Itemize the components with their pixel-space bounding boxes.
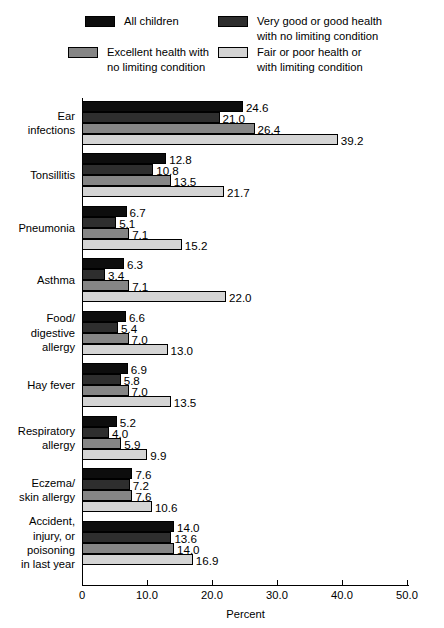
legend-swatch-fair-or-poor-health [218, 47, 248, 58]
bar [83, 344, 168, 355]
bar [83, 554, 193, 565]
bar-value-label: 24.6 [246, 102, 269, 113]
bar-value-label: 13.5 [174, 397, 197, 408]
bar-group: Eczema/ skin allergy7.67.27.610.6 [0, 468, 444, 512]
category-label: Ear infections [0, 109, 75, 138]
bar-value-label: 39.2 [341, 135, 364, 146]
bar [83, 280, 129, 291]
legend-entry-fair-or-poor-health: Fair or poor health or with limiting con… [218, 45, 363, 74]
bar [83, 521, 174, 532]
x-tick-mark [277, 580, 278, 586]
bar-group: Pneumonia6.75.17.115.2 [0, 206, 444, 250]
bar-chart-plot-area: 010.020.030.040.050.0 Ear infections24.6… [0, 96, 444, 628]
x-tick-label: 30.0 [254, 589, 300, 601]
bar-value-label: 21.7 [227, 187, 250, 198]
bar [83, 101, 243, 112]
bar-group: Hay fever6.95.87.013.5 [0, 363, 444, 407]
chart-legend: All children Very good or good health wi… [0, 0, 444, 96]
bar [83, 322, 118, 333]
category-label: Pneumonia [0, 221, 75, 235]
legend-swatch-excellent-health [68, 47, 98, 58]
bar [83, 228, 129, 239]
bar [83, 449, 147, 460]
bar-group: Asthma6.33.47.122.0 [0, 258, 444, 302]
bar [83, 123, 255, 134]
bar [83, 206, 127, 217]
bar [83, 153, 166, 164]
legend-label: Very good or good health with no limitin… [257, 14, 382, 43]
bar [83, 396, 171, 407]
bar-value-label: 13.0 [171, 345, 194, 356]
x-tick-label: 10.0 [124, 589, 170, 601]
bar [83, 490, 132, 501]
x-tick-mark [212, 580, 213, 586]
bar [83, 374, 121, 385]
bar [83, 385, 129, 396]
bar-value-label: 22.0 [229, 292, 252, 303]
x-tick-mark [147, 580, 148, 586]
category-label: Accident, injury, or poisoning in last y… [0, 514, 75, 572]
x-axis-title: Percent [82, 608, 409, 620]
bar [83, 134, 338, 145]
bar [83, 532, 171, 543]
bar-group: Food/ digestive allergy6.65.47.013.0 [0, 311, 444, 355]
bar [83, 239, 182, 250]
legend-label: Fair or poor health or with limiting con… [257, 45, 363, 74]
bar [83, 501, 152, 512]
bar [83, 175, 171, 186]
legend-swatch-all-children [85, 16, 115, 27]
category-label: Hay fever [0, 378, 75, 392]
bar [83, 333, 129, 344]
bar [83, 438, 121, 449]
bar [83, 291, 226, 302]
bar-group: Tonsillitis12.810.813.521.7 [0, 153, 444, 197]
bar [83, 468, 132, 479]
x-tick-label: 40.0 [319, 589, 365, 601]
bar-value-label: 16.9 [196, 555, 219, 566]
bar [83, 416, 117, 427]
bar [83, 258, 124, 269]
bar [83, 112, 220, 123]
legend-entry-very-good-or-good-health: Very good or good health with no limitin… [218, 14, 382, 43]
legend-entry-all-children: All children [85, 14, 179, 29]
bar-value-label: 10.6 [155, 502, 178, 513]
bar [83, 186, 224, 197]
bar [83, 269, 105, 280]
category-label: Tonsillitis [0, 168, 75, 182]
bar [83, 311, 126, 322]
x-axis-line [82, 585, 409, 586]
bar-value-label: 15.2 [185, 240, 208, 251]
category-label: Food/ digestive allergy [0, 311, 75, 354]
bar [83, 363, 128, 374]
x-tick-mark [82, 580, 83, 586]
bar-group: Accident, injury, or poisoning in last y… [0, 521, 444, 565]
bar [83, 217, 116, 228]
bar-group: Respiratory allergy5.24.05.99.9 [0, 416, 444, 460]
x-tick-label: 20.0 [189, 589, 235, 601]
x-tick-mark [407, 580, 408, 586]
bar-value-label: 6.3 [127, 259, 143, 270]
bar-value-label: 9.9 [150, 450, 166, 461]
legend-swatch-very-good-or-good-health [218, 16, 248, 27]
bar [83, 543, 174, 554]
legend-entry-excellent-health: Excellent health with no limiting condit… [68, 45, 209, 74]
x-tick-mark [342, 580, 343, 586]
x-tick-label: 50.0 [384, 589, 430, 601]
bar-group: Ear infections24.621.026.439.2 [0, 101, 444, 145]
x-tick-label: 0 [59, 589, 105, 601]
bar [83, 427, 109, 438]
category-label: Eczema/ skin allergy [0, 476, 75, 505]
category-label: Asthma [0, 273, 75, 287]
legend-label: Excellent health with no limiting condit… [107, 45, 209, 74]
bar [83, 164, 153, 175]
legend-label: All children [124, 14, 179, 29]
category-label: Respiratory allergy [0, 424, 75, 453]
bar [83, 479, 130, 490]
